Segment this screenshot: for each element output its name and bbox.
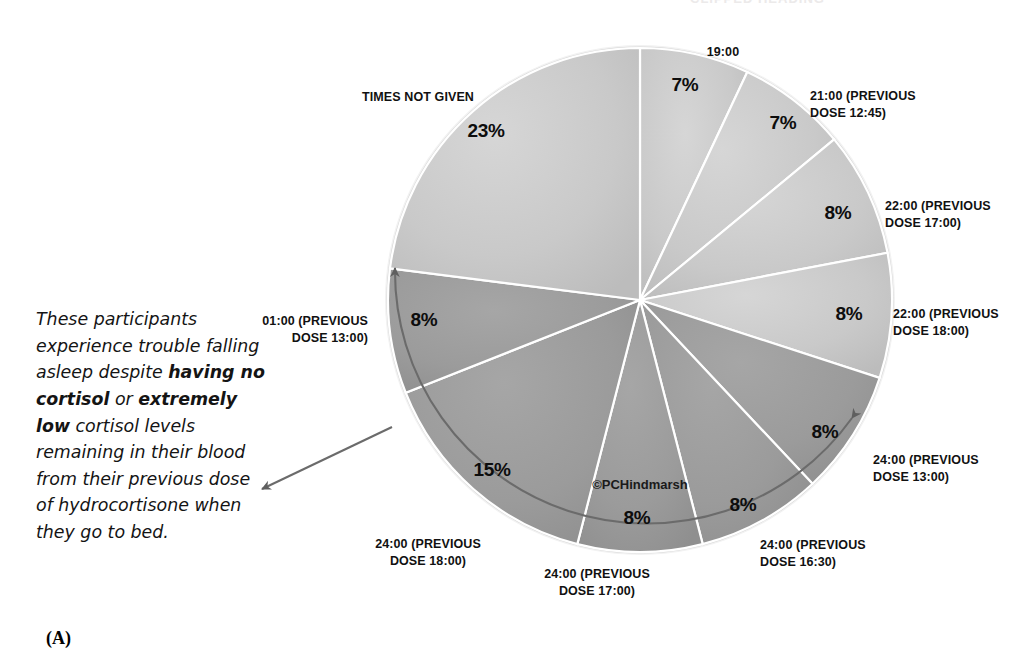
annotation-arrow-icon — [262, 427, 392, 489]
slice-category-label-line: 22:00 (PREVIOUS — [885, 198, 991, 215]
slice-category-label: 24:00 (PREVIOUSDOSE 16:30) — [760, 537, 866, 570]
slice-category-label-line: DOSE 13:00) — [873, 469, 979, 486]
slice-percent-label: 8% — [812, 421, 839, 443]
annotation-text-part2: or — [109, 389, 138, 409]
slice-category-label: 24:00 (PREVIOUSDOSE 18:00) — [375, 536, 481, 569]
slice-category-label-line: DOSE 12:45) — [810, 105, 916, 122]
slice-category-label-line: DOSE 13:00) — [262, 330, 368, 347]
slice-percent-label: 8% — [411, 309, 438, 331]
slice-category-label-line: 24:00 (PREVIOUS — [544, 566, 650, 583]
slice-category-label: TIMES NOT GIVEN — [362, 89, 474, 106]
slice-category-label: 24:00 (PREVIOUSDOSE 13:00) — [873, 452, 979, 485]
slice-percent-label: 7% — [672, 74, 699, 96]
slice-percent-label: 8% — [730, 494, 757, 516]
slice-category-label-line: TIMES NOT GIVEN — [362, 89, 474, 106]
annotation-paragraph: These participants experience trouble fa… — [36, 306, 268, 546]
slice-category-label-line: 24:00 (PREVIOUS — [873, 452, 979, 469]
slice-category-label: 22:00 (PREVIOUSDOSE 18:00) — [893, 306, 999, 339]
slice-category-label-line: 19:00 — [707, 44, 739, 61]
slice-percent-label: 7% — [770, 112, 797, 134]
slice-category-label: 01:00 (PREVIOUSDOSE 13:00) — [262, 313, 368, 346]
slice-percent-label: 8% — [624, 507, 651, 529]
slice-category-label: 21:00 (PREVIOUSDOSE 12:45) — [810, 88, 916, 121]
slice-category-label-line: 22:00 (PREVIOUS — [893, 306, 999, 323]
slice-percent-label: 8% — [836, 303, 863, 325]
slice-category-label-line: DOSE 16:30) — [760, 554, 866, 571]
watermark-text: ©PCHindmarsh — [592, 477, 688, 492]
pie-slice[interactable] — [390, 48, 640, 300]
slice-category-label: 24:00 (PREVIOUSDOSE 17:00) — [544, 566, 650, 599]
slice-category-label-line: 24:00 (PREVIOUS — [760, 537, 866, 554]
slice-percent-label: 23% — [467, 120, 504, 142]
slice-percent-label: 8% — [825, 202, 852, 224]
slice-category-label: 22:00 (PREVIOUSDOSE 17:00) — [885, 198, 991, 231]
slice-category-label-line: DOSE 18:00) — [893, 323, 999, 340]
slice-category-label: 19:00 — [707, 44, 739, 61]
slice-category-label-line: DOSE 17:00) — [544, 583, 650, 600]
slice-category-label-line: 24:00 (PREVIOUS — [375, 536, 481, 553]
figure-letter: (A) — [46, 628, 71, 649]
slice-category-label-line: 01:00 (PREVIOUS — [262, 313, 368, 330]
slice-category-label-line: 21:00 (PREVIOUS — [810, 88, 916, 105]
slice-category-label-line: DOSE 17:00) — [885, 215, 991, 232]
figure-panel: CLIPPED HEADING — [0, 0, 1034, 658]
slice-percent-label: 15% — [473, 459, 510, 481]
slice-category-label-line: DOSE 18:00) — [375, 553, 481, 570]
